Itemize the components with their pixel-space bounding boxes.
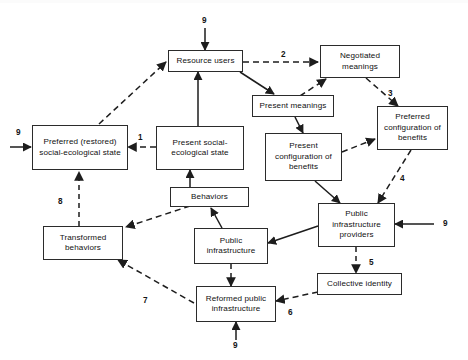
node-public-infrastructure[interactable]: Public infrastructure <box>194 228 268 264</box>
edge-public-infra-to-behaviors <box>211 208 222 228</box>
scan-artifact <box>0 0 468 3</box>
edge-preferred-config-to-infra-providers <box>378 150 411 203</box>
node-transformed-behaviors[interactable]: Transformed behaviors <box>43 226 123 260</box>
node-public-infrastructure-providers[interactable]: Public infrastructure providers <box>318 203 395 247</box>
edge-label-2: 2 <box>281 50 286 59</box>
edge-present-meanings-to-present-config <box>295 117 303 133</box>
node-present-meanings[interactable]: Present meanings <box>252 95 334 117</box>
edge-present-meanings-to-negotiated-meanings <box>300 79 326 96</box>
node-preferred-restored-social-ecological-state[interactable]: Preferred (restored) social-ecological s… <box>32 125 128 170</box>
node-present-social-ecological-state[interactable]: Present social-ecological state <box>156 126 244 170</box>
edge-label-3: 3 <box>388 89 393 98</box>
edge-collective-identity-to-reformed-infra <box>276 292 318 301</box>
edge-label-5: 5 <box>369 258 374 267</box>
edge-label-8: 8 <box>58 197 63 206</box>
node-collective-identity[interactable]: Collective identity <box>317 273 402 295</box>
node-reformed-public-infrastructure[interactable]: Reformed public infrastructure <box>196 286 276 322</box>
edge-present-config-to-preferred-config <box>342 139 375 152</box>
edge-present-config-to-infra-providers <box>315 181 340 203</box>
edge-negotiated-meanings-to-preferred-config <box>366 78 398 106</box>
edge-resource-users-to-present-meanings <box>240 72 274 94</box>
edge-label-4: 4 <box>400 174 405 183</box>
edge-label-6: 6 <box>288 308 293 317</box>
edge-infra-providers-to-public-infra <box>268 226 318 243</box>
edge-label-9-right: 9 <box>443 219 448 228</box>
edge-preferred-state-to-resource-users <box>99 62 166 124</box>
edge-label-9-top: 9 <box>202 16 207 25</box>
node-negotiated-meanings[interactable]: Negotiated meanings <box>320 45 400 78</box>
node-behaviors[interactable]: Behaviors <box>170 187 249 207</box>
node-present-configuration-of-benefits[interactable]: Present configuration of benefits <box>265 133 342 181</box>
edge-reformed-infra-to-transformed-behaviors <box>118 260 194 303</box>
edge-behaviors-to-transformed-behaviors <box>126 206 190 227</box>
node-preferred-configuration-of-benefits[interactable]: Preferred configuration of benefits <box>377 106 448 150</box>
edge-label-9-left: 9 <box>16 128 21 137</box>
diagram-canvas: Resource users Negotiated meanings Prese… <box>0 0 468 360</box>
edge-label-9-bottom: 9 <box>233 341 238 350</box>
node-resource-users[interactable]: Resource users <box>168 50 243 72</box>
edge-label-1: 1 <box>138 133 143 142</box>
edge-label-7: 7 <box>143 296 148 305</box>
